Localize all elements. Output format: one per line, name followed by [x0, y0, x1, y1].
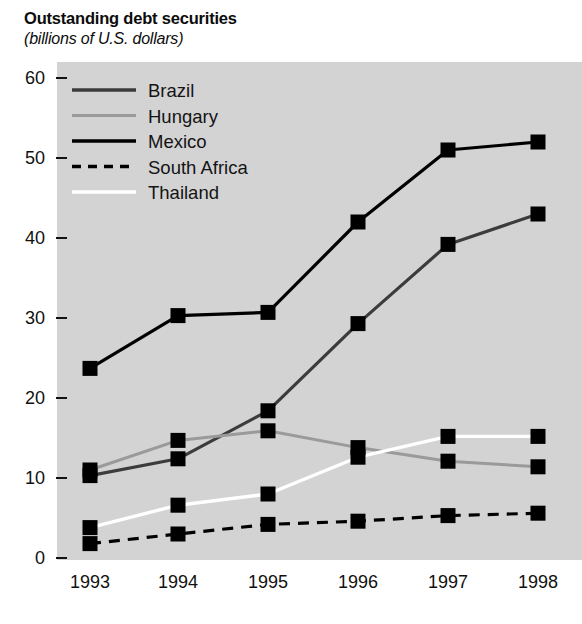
- data-point-marker: [351, 514, 366, 529]
- data-point-marker: [261, 305, 276, 320]
- legend-label-thailand: Thailand: [148, 182, 219, 203]
- y-axis-tick-label: 40: [25, 228, 45, 248]
- y-axis-tick-labels: 6050403020100: [25, 68, 45, 568]
- legend-label-hungary: Hungary: [148, 106, 219, 127]
- data-point-marker: [441, 237, 456, 252]
- data-point-marker: [171, 498, 186, 513]
- data-point-marker: [261, 517, 276, 532]
- data-point-marker: [171, 451, 186, 466]
- data-point-marker: [171, 433, 186, 448]
- y-axis-tick-label: 10: [25, 468, 45, 488]
- y-axis-tick-label: 60: [25, 68, 45, 88]
- data-point-marker: [441, 454, 456, 469]
- data-point-marker: [83, 520, 98, 535]
- x-axis-tick-labels: 199319941995199619971998: [70, 572, 558, 592]
- data-point-marker: [351, 450, 366, 465]
- chart-figure: 6050403020100 199319941995199619971998 B…: [0, 0, 582, 624]
- plot-area-background: [57, 62, 582, 560]
- x-axis-tick-label: 1997: [428, 572, 468, 592]
- legend-label-south-africa: South Africa: [148, 157, 248, 178]
- data-point-marker: [531, 429, 546, 444]
- data-point-marker: [83, 536, 98, 551]
- data-point-marker: [531, 207, 546, 222]
- y-axis-tick-label: 20: [25, 388, 45, 408]
- line-chart: 6050403020100 199319941995199619971998 B…: [0, 0, 582, 624]
- x-axis-tick-label: 1998: [518, 572, 558, 592]
- y-axis-tick-label: 50: [25, 148, 45, 168]
- data-point-marker: [531, 135, 546, 150]
- data-point-marker: [83, 361, 98, 376]
- data-point-marker: [83, 463, 98, 478]
- data-point-marker: [441, 508, 456, 523]
- data-point-marker: [171, 308, 186, 323]
- data-point-marker: [351, 316, 366, 331]
- data-point-marker: [261, 423, 276, 438]
- x-axis-tick-label: 1995: [248, 572, 288, 592]
- data-point-marker: [531, 506, 546, 521]
- data-point-marker: [351, 215, 366, 230]
- y-axis-tick-label: 0: [35, 548, 45, 568]
- data-point-marker: [441, 429, 456, 444]
- legend-label-brazil: Brazil: [148, 80, 194, 101]
- data-point-marker: [171, 527, 186, 542]
- legend-label-mexico: Mexico: [148, 131, 207, 152]
- data-point-marker: [261, 487, 276, 502]
- y-axis-tick-label: 30: [25, 308, 45, 328]
- data-point-marker: [441, 143, 456, 158]
- chart-page: Outstanding debt securities (billions of…: [0, 0, 582, 624]
- x-axis-tick-label: 1994: [158, 572, 198, 592]
- data-point-marker: [261, 403, 276, 418]
- x-axis-tick-label: 1993: [70, 572, 110, 592]
- x-axis-tick-label: 1996: [338, 572, 378, 592]
- data-point-marker: [531, 459, 546, 474]
